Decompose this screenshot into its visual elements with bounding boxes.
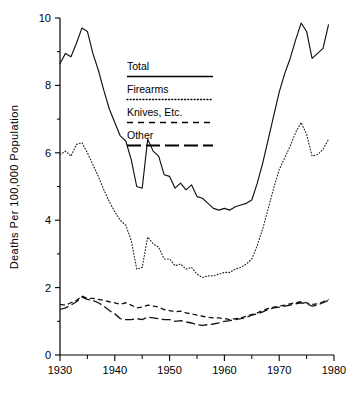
x-tick-label: 1980	[322, 364, 346, 376]
y-tick-label: 10	[39, 12, 51, 24]
x-tick-label: 1970	[267, 364, 291, 376]
x-tick-label: 1930	[48, 364, 72, 376]
y-tick-label: 6	[45, 147, 51, 159]
y-tick-label: 4	[45, 214, 51, 226]
x-tick-label: 1950	[157, 364, 181, 376]
line-chart: 0246810 193019401950196019701980 Deaths …	[0, 0, 354, 397]
legend-label-total: Total	[127, 60, 149, 72]
chart-background	[0, 0, 354, 397]
y-axis-title: Deaths Per 100,000 Population	[8, 105, 20, 270]
x-tick-label: 1940	[103, 364, 127, 376]
legend-label-knives-etc: Knives, Etc.	[127, 106, 182, 118]
legend-label-other: Other	[127, 129, 154, 141]
chart-container: 0246810 193019401950196019701980 Deaths …	[0, 0, 354, 397]
y-tick-label: 0	[45, 349, 51, 361]
legend-label-firearms: Firearms	[127, 83, 168, 95]
y-tick-label: 2	[45, 282, 51, 294]
x-tick-label: 1960	[212, 364, 236, 376]
y-tick-label: 8	[45, 79, 51, 91]
